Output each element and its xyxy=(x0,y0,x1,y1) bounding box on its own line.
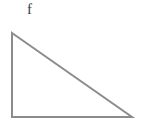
right-triangle-outline xyxy=(12,33,132,117)
figure-canvas: f xyxy=(0,0,145,126)
right-triangle-diagram xyxy=(0,0,145,126)
